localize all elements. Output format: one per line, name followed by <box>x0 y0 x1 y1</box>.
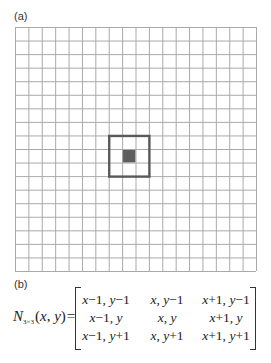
matrix-cell-1-2: x+1, y <box>209 311 242 325</box>
matrix-cell-0-0: x−1, y−1 <box>82 293 130 307</box>
formula-subscript: 3×3 <box>23 318 34 326</box>
matrix-cell-2-0: x−1, y+1 <box>82 329 130 343</box>
formula-equals: = <box>67 308 75 324</box>
matrix-cell-1-0: x−1, y <box>89 311 122 325</box>
matrix-cell-0-2: x+1, y−1 <box>202 293 250 307</box>
neighborhood-formula: N3×3(x, y)= x−1, y−1 x, y−1 x+1, y−1 x−1… <box>0 283 271 353</box>
matrix-cell-1-1: x, y <box>158 311 177 325</box>
pixel-grid <box>15 27 256 271</box>
center-pixel <box>122 149 135 163</box>
matrix-cell-2-1: x, y+1 <box>150 329 183 343</box>
formula-lhs: N3×3(x, y)= <box>13 308 75 325</box>
grid-svg <box>15 27 257 272</box>
matrix-left-bracket <box>75 287 81 350</box>
panel-label-a: (a) <box>14 11 27 22</box>
matrix-cell-0-1: x, y−1 <box>150 293 183 307</box>
formula-symbol: N <box>13 308 23 324</box>
matrix-right-bracket <box>250 287 256 350</box>
formula-args: (x, y) <box>35 308 66 324</box>
matrix-cell-2-2: x+1, y+1 <box>202 329 250 343</box>
